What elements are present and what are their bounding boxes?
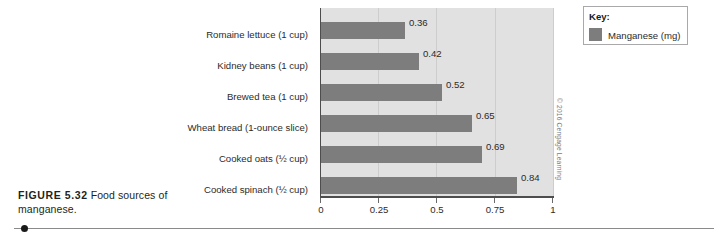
bar-value-label: 0.65 xyxy=(476,110,495,121)
bar-value-label: 0.52 xyxy=(446,79,465,90)
bar xyxy=(321,115,472,132)
x-axis-line xyxy=(320,196,554,198)
category-label: Kidney beans (1 cup) xyxy=(130,60,308,71)
gridline xyxy=(553,8,554,197)
bar xyxy=(321,53,419,70)
gridline xyxy=(495,8,496,197)
bar-value-label: 0.36 xyxy=(409,17,428,28)
copyright-notice: © 2016 Cengage Learning xyxy=(555,98,563,180)
figure-caption: FIGURE 5.32 Food sources of manganese. xyxy=(18,188,193,216)
bottom-bullet-dot xyxy=(21,225,28,232)
plot-area xyxy=(320,8,554,197)
bar-value-label: 0.42 xyxy=(423,48,442,59)
bar xyxy=(321,177,517,194)
x-tick-label: 0.25 xyxy=(370,204,389,215)
bar xyxy=(321,84,442,101)
x-tick xyxy=(378,198,379,203)
legend-series-label: Manganese (mg) xyxy=(608,30,681,41)
category-label: Wheat bread (1-ounce slice) xyxy=(130,122,308,133)
bar xyxy=(321,22,405,39)
x-tick-label: 0 xyxy=(318,204,323,215)
legend-key-box: Key: Manganese (mg) xyxy=(583,6,688,45)
category-label: Romaine lettuce (1 cup) xyxy=(130,29,308,40)
x-tick xyxy=(552,198,553,203)
x-tick xyxy=(320,198,321,203)
x-tick xyxy=(436,198,437,203)
bar xyxy=(321,146,482,163)
x-tick-label: 1 xyxy=(550,204,555,215)
legend-title: Key: xyxy=(589,11,610,22)
category-label: Cooked oats (½ cup) xyxy=(130,153,308,164)
x-tick xyxy=(494,198,495,203)
bar-chart: Romaine lettuce (1 cup) Kidney beans (1 … xyxy=(0,0,716,215)
bar-value-label: 0.84 xyxy=(521,172,540,183)
figure-number: FIGURE 5.32 xyxy=(18,189,88,201)
bottom-divider-rule xyxy=(14,228,714,229)
category-label: Brewed tea (1 cup) xyxy=(130,91,308,102)
gridline xyxy=(436,8,437,197)
legend-color-swatch xyxy=(589,28,602,41)
x-tick-label: 0.5 xyxy=(430,204,443,215)
bar-value-label: 0.69 xyxy=(486,141,505,152)
x-tick-label: 0.75 xyxy=(486,204,505,215)
category-axis: Romaine lettuce (1 cup) Kidney beans (1 … xyxy=(130,8,308,197)
